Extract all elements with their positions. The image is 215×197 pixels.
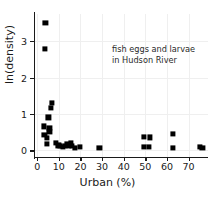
data-point (148, 135, 153, 140)
gridline-vertical (124, 14, 125, 157)
annotation-line: in Hudson River (112, 55, 195, 66)
annotation-line: fish eggs and larvae (112, 44, 195, 55)
gridline-horizontal (34, 78, 208, 79)
x-tick-label: 40 (118, 161, 130, 172)
gridline-vertical (59, 14, 60, 157)
x-tick-label: 30 (96, 161, 108, 172)
y-tick-label: 1 (27, 109, 33, 120)
data-point (200, 145, 205, 150)
y-axis-label: ln(density) (3, 0, 16, 110)
x-tick-label: 0 (34, 161, 40, 172)
data-point (46, 115, 51, 120)
data-point (170, 131, 175, 136)
y-tick-label: 3 (27, 36, 33, 47)
data-point (47, 130, 52, 135)
x-tick-label: 70 (182, 161, 194, 172)
data-point (43, 21, 48, 26)
gridline-horizontal (34, 114, 208, 115)
gridline-vertical (37, 14, 38, 157)
plot-area (34, 14, 208, 157)
x-tick-label: 50 (139, 161, 151, 172)
x-tick-label: 60 (161, 161, 173, 172)
data-point (42, 47, 47, 52)
data-point (45, 135, 50, 140)
y-axis-spine (34, 12, 35, 159)
data-point (41, 124, 46, 129)
gridline-vertical (102, 14, 103, 157)
data-point (44, 142, 49, 147)
gridline-horizontal (34, 150, 208, 151)
chart-annotation: fish eggs and larvaein Hudson River (112, 44, 195, 66)
data-point (97, 145, 102, 150)
gridline-vertical (167, 14, 168, 157)
data-point (146, 145, 151, 150)
data-point (77, 144, 82, 149)
gridline-vertical (189, 14, 190, 157)
x-axis-spine (34, 157, 208, 158)
x-tick-label: 20 (74, 161, 86, 172)
x-tick-label: 10 (53, 161, 65, 172)
scatter-chart-figure: 010203040506070 0123 fish eggs and larva… (0, 0, 215, 197)
gridline-horizontal (34, 41, 208, 42)
x-axis-label: Urban (%) (0, 176, 215, 189)
data-point (141, 134, 146, 139)
data-point (48, 105, 53, 110)
y-tick-label: 0 (27, 145, 33, 156)
y-tick-label: 2 (27, 72, 33, 83)
gridline-vertical (80, 14, 81, 157)
data-point (170, 145, 175, 150)
